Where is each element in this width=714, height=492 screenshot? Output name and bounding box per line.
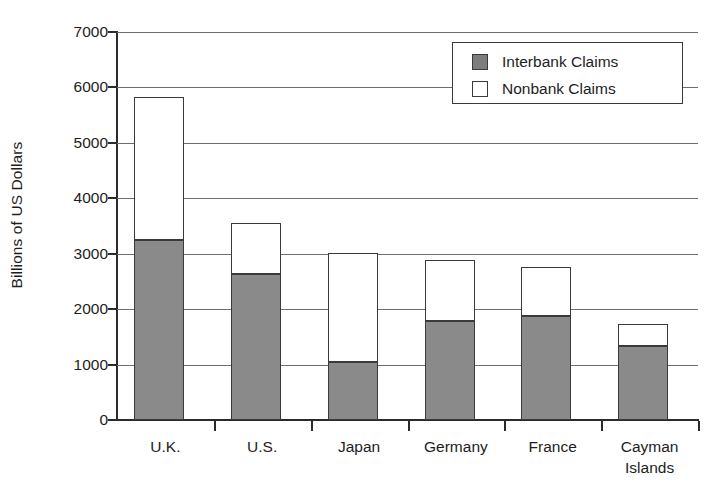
x-tick-mark: [504, 421, 506, 431]
bar-segment-interbank: [521, 316, 571, 420]
x-tick-label-germany: Germany: [408, 436, 505, 457]
bar-group: [328, 32, 378, 420]
x-tick-label-line2: Islands: [601, 457, 698, 478]
y-tick-label-5000: 5000: [14, 134, 108, 152]
y-tick-label-4000: 4000: [14, 189, 108, 207]
y-tick-mark-1000: [108, 364, 117, 366]
x-tick-label-line1: Japan: [338, 438, 380, 455]
x-axis-line: [108, 419, 699, 421]
x-tick-label-line1: U.K.: [150, 438, 180, 455]
y-tick-mark-4000: [108, 197, 117, 199]
y-tick-mark-2000: [108, 308, 117, 310]
bar-segment-interbank: [231, 274, 281, 420]
gridline-2000: [117, 309, 698, 310]
x-tick-mark: [311, 421, 313, 431]
x-tick-label-line1: Germany: [424, 438, 488, 455]
y-tick-mark-6000: [108, 86, 117, 88]
y-axis-line: [116, 31, 118, 421]
bar-segment-interbank: [425, 321, 475, 420]
bar-segment-nonbank: [521, 267, 571, 316]
y-tick-mark-0: [108, 419, 117, 421]
legend-swatch-interbank: [472, 54, 488, 70]
bar-group: [134, 32, 184, 420]
bar-segment-interbank: [328, 362, 378, 420]
x-tick-label-japan: Japan: [311, 436, 408, 457]
stacked-bar-chart: Billions of US Dollars 70006000500040003…: [0, 0, 714, 492]
bar-segment-nonbank: [231, 223, 281, 274]
y-tick-label-2000: 2000: [14, 300, 108, 318]
legend-item: Interbank Claims: [472, 49, 682, 75]
y-tick-mark-7000: [108, 31, 117, 33]
bar-segment-interbank: [618, 346, 668, 420]
gridline-3000: [117, 254, 698, 255]
y-tick-label-0: 0: [14, 411, 108, 429]
x-tick-label-line1: U.S.: [247, 438, 277, 455]
bar-segment-nonbank: [425, 260, 475, 321]
x-tick-mark: [698, 421, 700, 431]
x-tick-label-line1: France: [529, 438, 577, 455]
bar-group: [231, 32, 281, 420]
y-tick-label-7000: 7000: [14, 23, 108, 41]
gridline-4000: [117, 198, 698, 199]
bar-segment-nonbank: [134, 97, 184, 240]
legend-item: Nonbank Claims: [472, 76, 682, 102]
bar-segment-interbank: [134, 240, 184, 420]
y-tick-mark-5000: [108, 142, 117, 144]
y-tick-label-1000: 1000: [14, 356, 108, 374]
x-tick-label-us: U.S.: [214, 436, 311, 457]
x-tick-mark: [214, 421, 216, 431]
x-tick-mark: [601, 421, 603, 431]
legend-label: Nonbank Claims: [502, 80, 616, 98]
y-axis-title-label: Billions of US Dollars: [8, 142, 26, 289]
y-tick-label-6000: 6000: [14, 78, 108, 96]
bar-segment-nonbank: [328, 253, 378, 363]
gridline-5000: [117, 143, 698, 144]
bar-segment-nonbank: [618, 324, 668, 346]
x-tick-label-line1: Cayman: [621, 438, 679, 455]
x-tick-label-caymanislands: CaymanIslands: [601, 436, 698, 478]
x-tick-label-uk: U.K.: [117, 436, 214, 457]
x-tick-mark: [408, 421, 410, 431]
legend-label: Interbank Claims: [502, 53, 618, 71]
legend: Interbank ClaimsNonbank Claims: [452, 42, 683, 104]
legend-swatch-nonbank: [472, 81, 488, 97]
y-tick-label-3000: 3000: [14, 245, 108, 263]
gridline-1000: [117, 365, 698, 366]
y-tick-mark-3000: [108, 253, 117, 255]
x-tick-label-france: France: [504, 436, 601, 457]
gridline-7000: [117, 32, 698, 33]
